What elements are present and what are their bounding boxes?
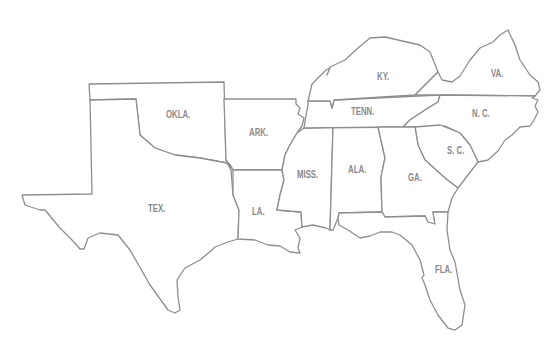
label-ark: ARK.: [249, 127, 268, 138]
label-la: LA.: [252, 206, 265, 217]
label-va: VA.: [491, 68, 503, 79]
label-tex: TEX.: [148, 203, 165, 214]
label-okla: OKLA.: [166, 109, 190, 120]
label-ky: KY.: [377, 71, 389, 82]
label-ga: GA.: [408, 172, 422, 183]
label-fla: FLA.: [435, 264, 452, 275]
label-tenn: TENN.: [351, 106, 374, 117]
southern-states-map: [0, 0, 559, 351]
label-miss: MISS.: [297, 169, 318, 180]
label-ala: ALA.: [348, 164, 366, 175]
label-sc: S. C.: [447, 145, 464, 156]
label-nc: N. C.: [472, 108, 490, 119]
